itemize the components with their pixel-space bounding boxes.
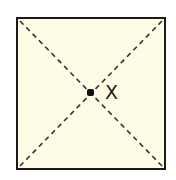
center-point: [87, 89, 94, 96]
center-point-label: X: [105, 81, 118, 103]
diagonals: [0, 0, 176, 180]
